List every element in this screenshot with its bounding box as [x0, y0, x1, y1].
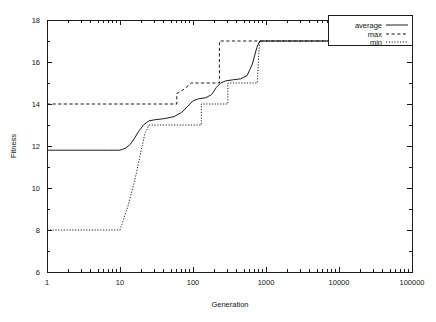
x-tick-label: 10 — [116, 278, 124, 287]
x-axis-label: Generation — [211, 300, 248, 309]
series-line-max — [47, 41, 412, 104]
plot-frame — [47, 20, 412, 272]
y-axis-ticks — [47, 20, 412, 272]
y-tick-label: 14 — [32, 100, 40, 109]
chart-canvas: 110100100010000100000 681012141618 Gener… — [0, 0, 436, 322]
x-tick-label: 1 — [45, 278, 49, 287]
y-tick-label: 18 — [32, 16, 40, 25]
series-line-min — [47, 41, 412, 230]
x-tick-label: 100000 — [399, 278, 424, 287]
x-tick-label: 10000 — [329, 278, 350, 287]
y-tick-label: 12 — [32, 142, 40, 151]
x-tick-label: 100 — [187, 278, 200, 287]
x-axis-ticks — [47, 20, 412, 272]
x-axis-tick-labels: 110100100010000100000 — [45, 278, 425, 287]
y-tick-label: 10 — [32, 184, 40, 193]
y-tick-label: 16 — [32, 58, 40, 67]
x-tick-label: 1000 — [258, 278, 275, 287]
fitness-vs-generation-chart: 110100100010000100000 681012141618 Gener… — [0, 0, 436, 322]
y-axis-tick-labels: 681012141618 — [32, 16, 40, 277]
chart-legend: averagemaxmin — [328, 15, 412, 47]
legend-label-average: average — [355, 21, 382, 30]
data-series-group — [47, 41, 412, 230]
series-line-average — [47, 41, 412, 150]
y-tick-label: 6 — [36, 268, 40, 277]
legend-label-min: min — [370, 38, 382, 47]
y-tick-label: 8 — [36, 226, 40, 235]
y-axis-label: Fitness — [9, 134, 18, 158]
